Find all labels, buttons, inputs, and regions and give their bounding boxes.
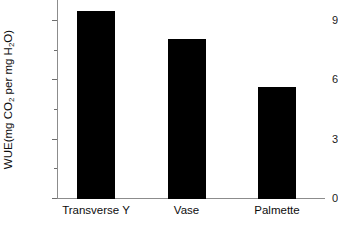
y-axis-title-post: O) <box>2 30 14 43</box>
x-tick-label: Palmette <box>254 203 299 217</box>
y-axis-title-mid: per mg H <box>2 47 14 98</box>
bar <box>77 11 115 199</box>
y-axis-title-pre: WUE(mg CO <box>2 102 14 169</box>
x-tick-label: Vase <box>174 203 199 217</box>
bar-chart-figure: WUE(mg CO2 per mg H2O) 0369 Transverse Y… <box>0 0 338 226</box>
plot-area <box>57 0 325 199</box>
y-axis-title: WUE(mg CO2 per mg H2O) <box>0 0 16 199</box>
y-axis-title-sub1: 2 <box>7 98 16 102</box>
x-tick-label: Transverse Y <box>62 203 130 217</box>
bar <box>258 87 296 199</box>
y-axis-title-sub2: 2 <box>7 43 16 47</box>
bar <box>168 39 206 199</box>
